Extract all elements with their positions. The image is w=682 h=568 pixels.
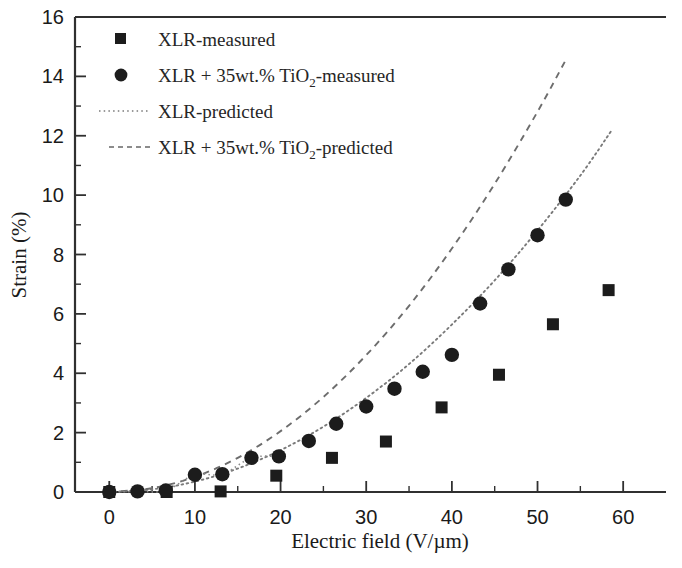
- legend-label: XLR-measured: [158, 29, 276, 50]
- y-axis-ticks: [75, 17, 86, 492]
- data-point-square: [547, 318, 559, 330]
- y-axis-title: Strain (%): [7, 212, 31, 299]
- x-axis-tick-labels: 0102030405060: [104, 506, 635, 528]
- data-point-square: [326, 452, 338, 464]
- legend-marker-square: [115, 33, 126, 44]
- chart-figure: 0102030405060 0246810121416 Electric fie…: [0, 0, 682, 568]
- data-point-circle: [215, 467, 229, 481]
- legend-marker-circle: [115, 69, 128, 82]
- data-point-circle: [188, 468, 202, 482]
- x-tick-label: 30: [355, 506, 377, 528]
- x-tick-label: 10: [184, 506, 206, 528]
- y-axis-tick-labels: 0246810121416: [42, 6, 64, 503]
- strain-vs-electric-field-chart: 0102030405060 0246810121416 Electric fie…: [0, 0, 682, 568]
- plot-frame: [75, 17, 666, 492]
- predicted-curve: [109, 130, 612, 492]
- data-point-square: [436, 401, 448, 413]
- x-tick-label: 60: [612, 506, 634, 528]
- x-axis-title: Electric field (V/µm): [291, 529, 469, 553]
- data-point-circle: [102, 485, 116, 499]
- x-tick-label: 20: [269, 506, 291, 528]
- data-point-circle: [244, 451, 258, 465]
- chart-legend: XLR-measuredXLR + 35wt.% TiO2-measuredXL…: [99, 29, 395, 162]
- data-point-circle: [559, 192, 573, 206]
- data-point-circle: [359, 399, 373, 413]
- data-point-square: [270, 470, 282, 482]
- measured-data-markers: [102, 192, 615, 499]
- legend-label: XLR + 35wt.% TiO2-predicted: [158, 137, 393, 162]
- data-point-circle: [130, 484, 144, 498]
- x-tick-label: 0: [104, 506, 115, 528]
- data-point-circle: [272, 449, 286, 463]
- y-tick-label: 0: [53, 481, 64, 503]
- legend-label: XLR + 35wt.% TiO2-measured: [158, 65, 395, 90]
- data-point-circle: [387, 381, 401, 395]
- data-point-circle: [501, 262, 515, 276]
- y-tick-label: 14: [42, 65, 64, 87]
- data-point-square: [380, 436, 392, 448]
- x-tick-label: 50: [526, 506, 548, 528]
- y-tick-label: 6: [53, 303, 64, 325]
- data-point-circle: [159, 483, 173, 497]
- legend-label: XLR-predicted: [158, 101, 274, 122]
- y-tick-label: 4: [53, 362, 64, 384]
- y-tick-label: 2: [53, 422, 64, 444]
- data-point-circle: [445, 348, 459, 362]
- data-point-circle: [473, 296, 487, 310]
- y-tick-label: 12: [42, 125, 64, 147]
- predicted-curves: [109, 62, 612, 492]
- data-point-circle: [530, 228, 544, 242]
- y-tick-label: 8: [53, 244, 64, 266]
- data-point-circle: [302, 434, 316, 448]
- data-point-circle: [329, 417, 343, 431]
- data-point-square: [215, 485, 227, 497]
- data-point-square: [493, 369, 505, 381]
- data-point-circle: [416, 365, 430, 379]
- x-tick-label: 40: [441, 506, 463, 528]
- data-point-square: [603, 284, 615, 296]
- y-tick-label: 10: [42, 184, 64, 206]
- y-tick-label: 16: [42, 6, 64, 28]
